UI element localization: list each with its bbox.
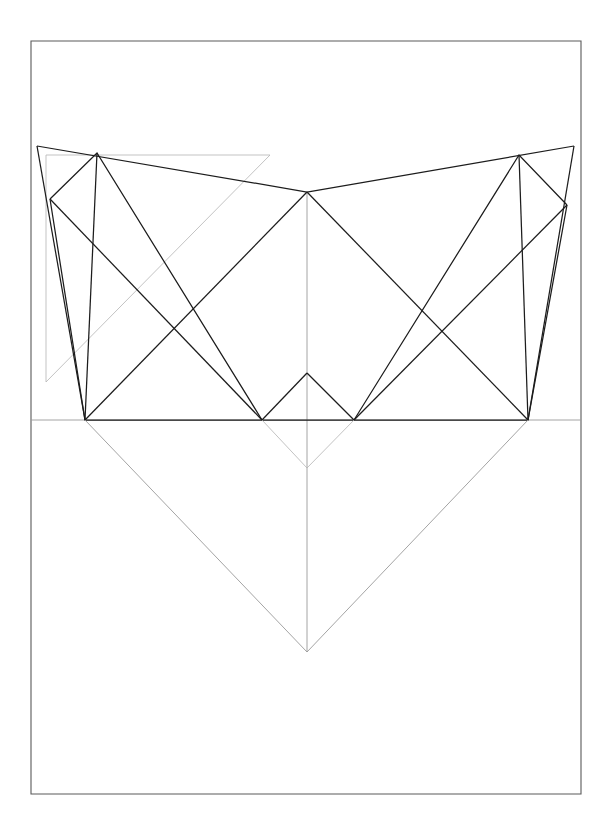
figure-root: Descriptive Geometry Construction Drawin…: [0, 0, 614, 827]
geometry-drawing-canvas: [0, 0, 614, 827]
